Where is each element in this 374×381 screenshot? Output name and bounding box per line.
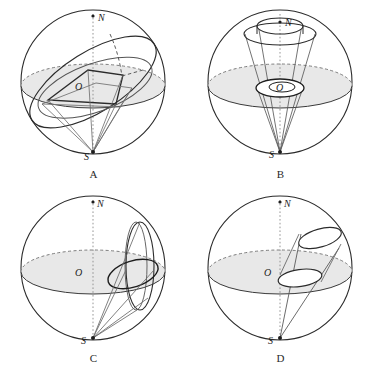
north-pole-marker bbox=[91, 200, 94, 203]
panel-c: N O S C bbox=[0, 190, 187, 381]
label-south: S bbox=[268, 335, 273, 346]
panel-c-caption: C bbox=[0, 352, 187, 364]
panel-a: N O S A bbox=[0, 0, 187, 190]
south-pole-marker bbox=[91, 150, 95, 154]
south-pole-marker bbox=[278, 150, 282, 154]
label-center: O bbox=[75, 267, 82, 278]
panel-d-caption: D bbox=[187, 352, 374, 364]
north-pole-marker bbox=[91, 14, 94, 17]
label-north: N bbox=[97, 12, 106, 23]
label-center: O bbox=[276, 82, 283, 93]
panel-b-diagram: N O S bbox=[187, 0, 374, 190]
panel-a-diagram: N O S bbox=[0, 0, 187, 190]
north-pole-marker bbox=[278, 20, 281, 23]
label-south: S bbox=[81, 335, 86, 346]
label-south: S bbox=[84, 151, 89, 162]
north-pole-marker bbox=[278, 200, 281, 203]
label-center: O bbox=[75, 81, 82, 92]
label-center: O bbox=[264, 267, 271, 278]
panel-b: N O S B bbox=[187, 0, 374, 190]
label-north: N bbox=[284, 17, 293, 28]
panel-a-caption: A bbox=[0, 168, 187, 180]
south-pole-marker bbox=[278, 336, 282, 340]
ray-4 bbox=[93, 104, 116, 152]
panel-b-caption: B bbox=[187, 168, 374, 180]
tube-top-ellipse bbox=[296, 223, 343, 252]
figure-container: N O S A bbox=[0, 0, 374, 381]
label-north: N bbox=[96, 198, 105, 209]
south-pole-marker bbox=[91, 336, 95, 340]
label-south: S bbox=[269, 149, 274, 160]
panel-d: N O S D bbox=[187, 190, 374, 381]
label-north: N bbox=[283, 198, 292, 209]
